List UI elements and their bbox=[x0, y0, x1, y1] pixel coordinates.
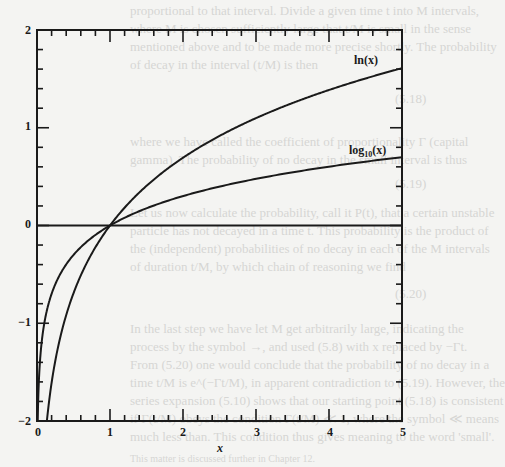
y-tick-label-1: 1 bbox=[25, 119, 31, 133]
y-tick-label-2: 2 bbox=[25, 23, 31, 37]
x-tick-label-4: 4 bbox=[327, 425, 333, 439]
x-tick-label-5: 5 bbox=[400, 425, 406, 439]
log10-curve-label: log10(x) bbox=[349, 143, 386, 159]
log10-curve bbox=[38, 157, 402, 421]
x-tick-label-3: 3 bbox=[254, 425, 260, 439]
x-axis-label: x bbox=[216, 441, 223, 455]
y-tick-label-neg1: −1 bbox=[18, 315, 31, 329]
y-tick-label-0: 0 bbox=[25, 217, 31, 231]
y-tick-label-neg2: −2 bbox=[18, 414, 31, 428]
x-tick-label-0: 0 bbox=[35, 425, 41, 439]
x-tick-label-2: 2 bbox=[180, 425, 186, 439]
ln-curve bbox=[47, 68, 402, 421]
ln-curve-label: ln(x) bbox=[354, 53, 378, 67]
x-tick-label-1: 1 bbox=[107, 425, 113, 439]
